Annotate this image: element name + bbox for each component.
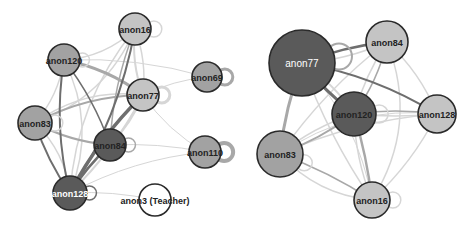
node-anon77[interactable]: anon77 bbox=[269, 30, 335, 96]
left-network: anon16anon120anon77anon69anon83anon84ano… bbox=[18, 13, 223, 216]
node-label: anon84 bbox=[371, 38, 403, 48]
node-anon16[interactable]: anon16 bbox=[354, 182, 390, 218]
node-label: anon128 bbox=[52, 189, 89, 199]
node-anon3[interactable]: anon3 (Teacher) bbox=[121, 184, 190, 216]
node-label: anon128 bbox=[419, 110, 456, 120]
node-anon77[interactable]: anon77 bbox=[127, 79, 159, 111]
node-label: anon77 bbox=[127, 91, 159, 101]
node-anon84[interactable]: anon84 bbox=[94, 129, 126, 161]
node-anon83[interactable]: anon83 bbox=[257, 131, 303, 177]
node-label: anon69 bbox=[191, 73, 223, 83]
node-label: anon16 bbox=[356, 196, 388, 206]
node-anon120[interactable]: anon120 bbox=[46, 44, 83, 76]
node-anon83[interactable]: anon83 bbox=[18, 106, 52, 140]
node-anon128[interactable]: anon128 bbox=[418, 95, 456, 133]
node-anon128[interactable]: anon128 bbox=[52, 176, 89, 210]
node-label: anon84 bbox=[94, 141, 126, 151]
network-diagram: anon16anon120anon77anon69anon83anon84ano… bbox=[0, 0, 471, 234]
node-label: anon83 bbox=[19, 119, 51, 129]
node-anon69[interactable]: anon69 bbox=[191, 62, 223, 92]
node-label: anon77 bbox=[285, 58, 319, 69]
node-label: anon83 bbox=[264, 150, 296, 160]
node-anon120[interactable]: anon120 bbox=[332, 92, 376, 136]
node-anon84[interactable]: anon84 bbox=[366, 21, 408, 63]
node-label: anon3 (Teacher) bbox=[121, 196, 190, 206]
node-label: anon120 bbox=[46, 56, 83, 66]
node-anon110[interactable]: anon110 bbox=[187, 136, 223, 168]
node-label: anon110 bbox=[187, 148, 223, 158]
node-anon16[interactable]: anon16 bbox=[119, 13, 151, 45]
node-label: anon16 bbox=[119, 25, 151, 35]
node-label: anon120 bbox=[336, 110, 373, 120]
